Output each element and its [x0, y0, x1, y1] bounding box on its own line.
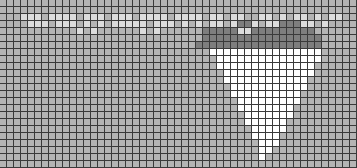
grid-cell[interactable]	[350, 147, 357, 154]
grid-cell[interactable]	[329, 105, 336, 112]
grid-cell[interactable]	[14, 49, 21, 56]
grid-cell[interactable]	[105, 91, 112, 98]
grid-cell[interactable]	[287, 133, 294, 140]
grid-cell[interactable]	[98, 63, 105, 70]
grid-cell[interactable]	[301, 126, 308, 133]
grid-cell[interactable]	[322, 105, 329, 112]
grid-cell[interactable]	[28, 0, 35, 7]
grid-cell[interactable]	[56, 133, 63, 140]
grid-cell[interactable]	[280, 0, 287, 7]
grid-cell[interactable]	[329, 56, 336, 63]
grid-cell[interactable]	[315, 0, 322, 7]
grid-cell[interactable]	[252, 77, 259, 84]
grid-cell[interactable]	[238, 35, 245, 42]
grid-cell[interactable]	[336, 35, 343, 42]
grid-cell[interactable]	[56, 154, 63, 161]
grid-cell[interactable]	[168, 147, 175, 154]
grid-cell[interactable]	[245, 98, 252, 105]
grid-cell[interactable]	[112, 28, 119, 35]
grid-cell[interactable]	[0, 161, 7, 168]
grid-cell[interactable]	[49, 112, 56, 119]
grid-cell[interactable]	[70, 14, 77, 21]
grid-cell[interactable]	[196, 154, 203, 161]
grid-cell[interactable]	[133, 7, 140, 14]
grid-cell[interactable]	[168, 77, 175, 84]
grid-cell[interactable]	[28, 56, 35, 63]
grid-cell[interactable]	[112, 7, 119, 14]
grid-cell[interactable]	[315, 91, 322, 98]
grid-cell[interactable]	[14, 42, 21, 49]
grid-cell[interactable]	[98, 84, 105, 91]
grid-cell[interactable]	[133, 42, 140, 49]
grid-cell[interactable]	[77, 56, 84, 63]
grid-cell[interactable]	[0, 14, 7, 21]
grid-cell[interactable]	[266, 14, 273, 21]
grid-cell[interactable]	[182, 140, 189, 147]
grid-cell[interactable]	[308, 126, 315, 133]
grid-cell[interactable]	[21, 147, 28, 154]
grid-cell[interactable]	[343, 21, 350, 28]
grid-cell[interactable]	[133, 112, 140, 119]
grid-cell[interactable]	[287, 7, 294, 14]
grid-cell[interactable]	[182, 21, 189, 28]
grid-cell[interactable]	[119, 21, 126, 28]
grid-cell[interactable]	[147, 161, 154, 168]
grid-cell[interactable]	[84, 63, 91, 70]
grid-cell[interactable]	[203, 140, 210, 147]
grid-cell[interactable]	[105, 112, 112, 119]
grid-cell[interactable]	[28, 98, 35, 105]
grid-cell[interactable]	[329, 63, 336, 70]
grid-cell[interactable]	[336, 119, 343, 126]
grid-cell[interactable]	[189, 84, 196, 91]
grid-cell[interactable]	[280, 70, 287, 77]
grid-cell[interactable]	[126, 154, 133, 161]
grid-cell[interactable]	[175, 63, 182, 70]
grid-cell[interactable]	[49, 161, 56, 168]
grid-cell[interactable]	[273, 7, 280, 14]
grid-cell[interactable]	[329, 21, 336, 28]
grid-cell[interactable]	[21, 77, 28, 84]
grid-cell[interactable]	[189, 42, 196, 49]
grid-cell[interactable]	[105, 56, 112, 63]
grid-cell[interactable]	[252, 0, 259, 7]
grid-cell[interactable]	[98, 133, 105, 140]
grid-cell[interactable]	[217, 35, 224, 42]
grid-cell[interactable]	[245, 42, 252, 49]
grid-cell[interactable]	[14, 98, 21, 105]
grid-cell[interactable]	[238, 21, 245, 28]
grid-cell[interactable]	[217, 112, 224, 119]
grid-cell[interactable]	[21, 63, 28, 70]
grid-cell[interactable]	[14, 84, 21, 91]
grid-cell[interactable]	[273, 98, 280, 105]
grid-cell[interactable]	[140, 7, 147, 14]
grid-cell[interactable]	[28, 91, 35, 98]
grid-cell[interactable]	[196, 7, 203, 14]
grid-cell[interactable]	[154, 119, 161, 126]
grid-cell[interactable]	[175, 147, 182, 154]
grid-cell[interactable]	[91, 63, 98, 70]
grid-cell[interactable]	[231, 56, 238, 63]
grid-cell[interactable]	[238, 119, 245, 126]
grid-cell[interactable]	[175, 28, 182, 35]
grid-cell[interactable]	[7, 119, 14, 126]
grid-cell[interactable]	[91, 105, 98, 112]
grid-cell[interactable]	[350, 161, 357, 168]
grid-cell[interactable]	[77, 35, 84, 42]
grid-cell[interactable]	[140, 98, 147, 105]
grid-cell[interactable]	[154, 42, 161, 49]
grid-cell[interactable]	[70, 7, 77, 14]
grid-cell[interactable]	[98, 14, 105, 21]
grid-cell[interactable]	[308, 56, 315, 63]
grid-cell[interactable]	[21, 28, 28, 35]
grid-cell[interactable]	[49, 21, 56, 28]
grid-cell[interactable]	[161, 28, 168, 35]
grid-cell[interactable]	[140, 140, 147, 147]
grid-cell[interactable]	[350, 35, 357, 42]
grid-cell[interactable]	[336, 77, 343, 84]
grid-cell[interactable]	[273, 63, 280, 70]
grid-cell[interactable]	[84, 112, 91, 119]
grid-cell[interactable]	[182, 35, 189, 42]
grid-cell[interactable]	[105, 140, 112, 147]
grid-cell[interactable]	[217, 105, 224, 112]
grid-cell[interactable]	[301, 140, 308, 147]
